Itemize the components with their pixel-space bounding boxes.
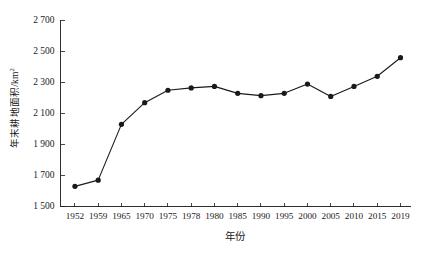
x-axis-tick-label: 2015 — [368, 211, 387, 221]
data-point-marker — [96, 178, 101, 183]
y-axis-tick-label: 2 300 — [33, 77, 55, 87]
y-axis-tick-label: 2 100 — [33, 108, 55, 118]
data-point-marker — [282, 91, 287, 96]
data-point-marker — [398, 55, 403, 60]
x-axis-tick-label: 1975 — [159, 211, 178, 221]
x-axis-tick-label: 1995 — [275, 211, 294, 221]
data-point-marker — [351, 84, 356, 89]
chart-figure: 年末耕地面积/km2 1 5001 7001 9002 1002 3002 50… — [0, 0, 425, 256]
chart-plot-area: 1 5001 7001 9002 1002 3002 5002 700 1952… — [0, 0, 425, 256]
data-point-marker — [258, 93, 263, 98]
x-axis-tick-label: 1959 — [89, 211, 108, 221]
x-axis-title: 年份 — [60, 228, 410, 243]
x-axis-tick-label: 1965 — [112, 211, 131, 221]
x-axis-tick-label: 1980 — [205, 211, 224, 221]
data-point-marker — [212, 84, 217, 89]
data-point-marker — [119, 122, 124, 127]
x-axis-tick-label: 1985 — [229, 211, 248, 221]
x-axis-tick-label: 1990 — [252, 211, 271, 221]
x-axis-tick-label: 1970 — [135, 211, 154, 221]
x-axis-tick-label: 2000 — [298, 211, 317, 221]
data-point-marker — [189, 85, 194, 90]
data-point-marker — [375, 74, 380, 79]
x-axis-tick-label: 1952 — [66, 211, 85, 221]
x-axis-tick-label: 2010 — [345, 211, 364, 221]
x-axis-tick-marks — [75, 203, 401, 207]
y-axis-tick-label: 1 900 — [33, 139, 55, 149]
y-axis-tick-label: 1 500 — [33, 201, 55, 211]
x-axis-tick-labels: 1952195919651970197519781980198519901995… — [66, 211, 410, 221]
data-point-marker — [165, 88, 170, 93]
x-axis-tick-label: 2005 — [322, 211, 341, 221]
y-axis-tick-marks — [61, 21, 65, 207]
data-point-marker — [72, 184, 77, 189]
y-axis-tick-label: 2 700 — [33, 15, 55, 25]
data-series-line — [75, 58, 401, 187]
data-point-markers — [72, 55, 403, 189]
data-point-marker — [235, 91, 240, 96]
y-axis-tick-label: 2 500 — [33, 46, 55, 56]
x-axis-tick-label: 1978 — [182, 211, 201, 221]
data-point-marker — [305, 81, 310, 86]
data-point-marker — [142, 100, 147, 105]
y-axis-tick-labels: 1 5001 7001 9002 1002 3002 5002 700 — [33, 15, 55, 211]
data-point-marker — [328, 94, 333, 99]
x-axis-tick-label: 2019 — [391, 211, 410, 221]
y-axis-tick-label: 1 700 — [33, 170, 55, 180]
